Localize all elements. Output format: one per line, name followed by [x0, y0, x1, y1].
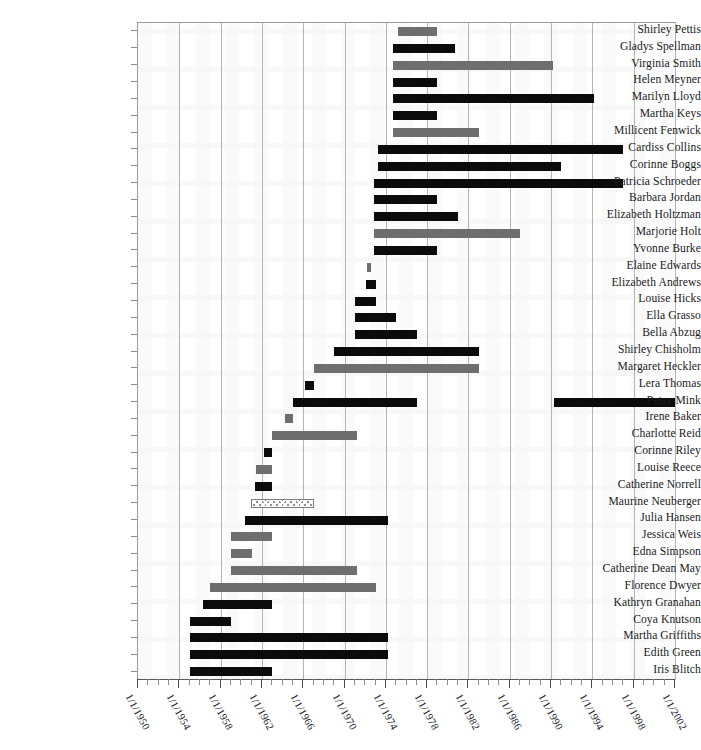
bar-jessica-weis	[231, 532, 272, 541]
x-axis-minor-tick-1963	[271, 679, 272, 685]
y-axis-tick	[131, 519, 137, 520]
y-axis-tick	[131, 603, 137, 604]
bar-virginia-smith	[393, 61, 553, 70]
bar-margaret-heckler	[314, 364, 479, 373]
bar-elaine-edwards	[367, 263, 371, 272]
y-axis-tick	[131, 165, 137, 166]
x-axis-tick-label-1950: 1/1/1950	[123, 692, 152, 732]
bar-coya-knutson	[190, 617, 231, 626]
y-axis-tick	[131, 132, 137, 133]
bar-gladys-spellman	[393, 44, 455, 53]
x-axis-minor-tick-1976	[406, 679, 407, 685]
y-axis-tick	[131, 654, 137, 655]
x-axis-minor-tick-1991	[560, 679, 561, 685]
bar-elizabeth-holtzman	[374, 212, 458, 221]
bar-patsy-mink-seg1	[293, 398, 417, 407]
x-axis-major-tick-1998	[633, 679, 634, 688]
y-axis-tick	[131, 300, 137, 301]
y-axis-tick	[131, 536, 137, 537]
bar-irene-baker	[285, 414, 293, 423]
bar-ella-grasso	[355, 313, 396, 322]
y-axis-tick	[131, 485, 137, 486]
bar-yvonne-burke	[374, 246, 437, 255]
x-axis-minor-tick-1973	[375, 679, 376, 685]
bar-catherine-dean-may	[231, 566, 357, 575]
y-axis-tick	[131, 620, 137, 621]
x-axis-minor-tick-1967	[313, 679, 314, 685]
y-axis-label-cardiss-collins: Cardiss Collins	[571, 142, 701, 154]
gridline-1990	[551, 23, 552, 680]
gridline-1954	[179, 23, 180, 680]
gridline-1962	[262, 23, 263, 680]
x-axis-minor-tick-2000	[653, 679, 654, 685]
x-axis-minor-tick-1980	[447, 679, 448, 685]
y-axis-label-catherine-norrell: Catherine Norrell	[571, 479, 701, 491]
x-axis-minor-tick-1983	[478, 679, 479, 685]
x-axis-tick-label-1958: 1/1/1958	[206, 692, 235, 732]
bar-florence-dwyer	[210, 583, 375, 592]
y-axis-tick	[131, 468, 137, 469]
bar-helen-meyner	[393, 78, 437, 87]
x-axis-tick-label-1974: 1/1/1974	[371, 692, 400, 732]
x-axis-minor-tick-2001	[664, 679, 665, 685]
y-axis-tick	[131, 182, 137, 183]
y-axis-tick	[131, 317, 137, 318]
y-axis-label-shirley-pettis: Shirley Pettis	[571, 24, 701, 36]
x-axis-major-tick-1986	[509, 679, 510, 688]
y-axis-label-jessica-weis: Jessica Weis	[571, 529, 701, 541]
bar-louise-hicks	[355, 297, 376, 306]
y-axis-label-corinne-boggs: Corinne Boggs	[571, 159, 701, 171]
bar-millicent-fenwick	[393, 128, 479, 137]
x-axis-minor-tick-1972	[364, 679, 365, 685]
x-axis-major-tick-1958	[220, 679, 221, 688]
y-axis-label-millicent-fenwick: Millicent Fenwick	[571, 125, 701, 137]
y-axis-tick	[131, 553, 137, 554]
y-axis-label-virginia-smith: Virginia Smith	[571, 58, 701, 70]
x-axis-minor-tick-1997	[622, 679, 623, 685]
y-axis-tick	[131, 148, 137, 149]
x-axis-minor-tick-1999	[643, 679, 644, 685]
y-axis-label-kathryn-granahan: Kathryn Granahan	[571, 597, 701, 609]
bar-martha-griffiths	[190, 633, 388, 642]
x-axis-minor-tick-1964	[282, 679, 283, 685]
x-axis-minor-tick-1996	[612, 679, 613, 685]
x-axis-major-tick-1962	[261, 679, 262, 688]
y-axis-tick	[131, 233, 137, 234]
bar-elizabeth-andrews	[366, 280, 375, 289]
y-axis-tick	[131, 47, 137, 48]
bar-iris-blitch	[190, 667, 273, 676]
bar-lera-thomas	[305, 381, 313, 390]
x-axis-tick-label-1982: 1/1/1982	[454, 692, 483, 732]
x-axis-minor-tick-1955	[189, 679, 190, 685]
y-axis-label-maurine-neuberger: Maurine Neuberger	[571, 496, 701, 508]
x-axis-major-tick-1982	[467, 679, 468, 688]
y-axis-tick	[131, 115, 137, 116]
x-axis-major-tick-1978	[426, 679, 427, 688]
x-axis-minor-tick-1995	[602, 679, 603, 685]
y-axis-label-patricia-schroeder: Patricia Schroeder	[571, 176, 701, 188]
x-axis-minor-tick-1989	[540, 679, 541, 685]
x-axis-minor-tick-1984	[488, 679, 489, 685]
y-axis-label-julia-hansen: Julia Hansen	[571, 512, 701, 524]
y-axis-tick	[131, 30, 137, 31]
x-axis-tick-label-1962: 1/1/1962	[247, 692, 276, 732]
y-axis-label-coya-knutson: Coya Knutson	[571, 614, 701, 626]
y-axis-tick	[131, 418, 137, 419]
y-axis-label-louise-hicks: Louise Hicks	[571, 293, 701, 305]
x-axis-tick-label-1990: 1/1/1990	[536, 692, 565, 732]
y-axis-tick	[131, 637, 137, 638]
y-axis-label-helen-meyner: Helen Meyner	[571, 74, 701, 86]
y-axis-tick	[131, 401, 137, 402]
y-axis-tick	[131, 351, 137, 352]
gridline-1986	[510, 23, 511, 680]
bar-barbara-jordan	[374, 195, 437, 204]
y-axis-label-louise-reece: Louise Reece	[571, 462, 701, 474]
y-axis-label-elaine-edwards: Elaine Edwards	[571, 260, 701, 272]
x-axis-tick-label-2002: 1/1/2002	[660, 692, 689, 732]
y-axis-label-bella-abzug: Bella Abzug	[571, 327, 701, 339]
y-axis-label-elizabeth-holtzman: Elizabeth Holtzman	[571, 209, 701, 221]
bar-shirley-chisholm	[334, 347, 479, 356]
gantt-chart: Shirley PettisGladys SpellmanVirginia Sm…	[0, 0, 701, 750]
x-axis-minor-tick-1953	[168, 679, 169, 685]
x-axis-major-tick-1970	[344, 679, 345, 688]
